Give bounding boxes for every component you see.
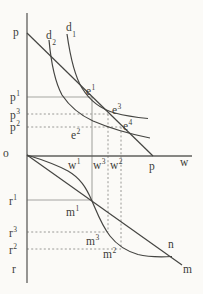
- label-r1-level: r1: [9, 194, 17, 207]
- label-r-axis-bottom: r: [12, 263, 16, 275]
- d1-curve: [67, 34, 148, 119]
- label-m1-point: m1: [66, 205, 79, 218]
- d2-curve: [49, 40, 150, 138]
- label-r2-level: r2: [9, 243, 17, 256]
- label-e1-point: e1: [86, 84, 95, 97]
- label-m3-point: m3: [86, 234, 99, 247]
- label-p-axis-top: p: [13, 26, 19, 38]
- label-e4-point: e4: [123, 119, 132, 132]
- label-d2-curve: d2: [46, 29, 56, 43]
- label-e3-point: e3: [112, 103, 121, 116]
- label-w1-level: w1: [68, 158, 81, 171]
- label-r3-level: r3: [9, 226, 17, 239]
- label-d1-curve: d1: [66, 21, 76, 35]
- label-m2-point: m2: [103, 247, 116, 260]
- label-m-line: m: [183, 263, 192, 275]
- label-p-intercept: p: [149, 160, 155, 172]
- figure-canvas: p d2 d1 p1 p3 p2 e1 e3 e4 e2 o w1 w3 w2 …: [0, 0, 203, 294]
- label-w-axis-end: w: [180, 156, 188, 168]
- label-p2-level: p2: [10, 120, 20, 133]
- label-w3-level: w3: [93, 158, 106, 171]
- label-p1-level: p1: [10, 90, 20, 103]
- label-e2-point: e2: [71, 128, 80, 141]
- label-w2-level: w2: [110, 158, 123, 171]
- label-n-curve: n: [168, 238, 174, 250]
- label-origin: o: [3, 147, 9, 159]
